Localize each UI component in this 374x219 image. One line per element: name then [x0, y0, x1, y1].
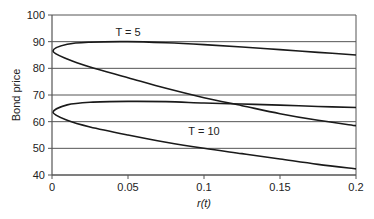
- bond-price-chart: 405060708090100 00.050.10.150.2 T = 5T =…: [0, 0, 374, 219]
- curve-annotation: T = 10: [188, 125, 219, 137]
- y-axis-label: Bond price: [10, 69, 22, 122]
- y-tick-label: 40: [33, 169, 45, 181]
- series-line: [53, 42, 356, 126]
- x-axis-ticks: 00.050.10.150.2: [49, 175, 364, 193]
- curve-annotation: T = 5: [115, 26, 140, 38]
- x-tick-label: 0.2: [348, 181, 363, 193]
- y-tick-label: 100: [27, 9, 45, 21]
- y-tick-label: 70: [33, 89, 45, 101]
- y-tick-label: 50: [33, 142, 45, 154]
- gridlines: [52, 15, 356, 175]
- x-tick-label: 0: [49, 181, 55, 193]
- series-curves: [53, 42, 356, 169]
- x-tick-label: 0.15: [269, 181, 290, 193]
- x-tick-label: 0.1: [196, 181, 211, 193]
- x-axis-label: r(t): [197, 197, 211, 209]
- y-tick-label: 60: [33, 116, 45, 128]
- y-axis-ticks: 405060708090100: [27, 9, 52, 181]
- x-tick-label: 0.05: [117, 181, 138, 193]
- y-tick-label: 90: [33, 36, 45, 48]
- y-tick-label: 80: [33, 62, 45, 74]
